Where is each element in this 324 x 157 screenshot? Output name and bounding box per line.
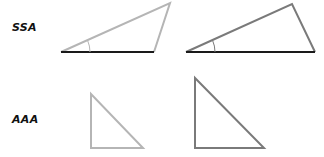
angle-arc-icon (88, 40, 90, 52)
triangle-diagram (0, 0, 324, 157)
ssa-triangle-large (186, 4, 315, 52)
angle-arc-icon (213, 40, 215, 52)
aaa-triangle-small (91, 94, 143, 148)
ssa-triangle-small (61, 3, 170, 52)
aaa-triangle-large (195, 78, 264, 148)
